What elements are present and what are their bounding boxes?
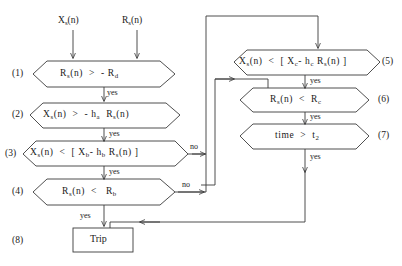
flowchart-canvas: Xs(n) Rs(n) (1) (2) (3) (4) (5) (6) (7) … [0, 0, 402, 266]
edge-label-yes-6-7: yes [310, 113, 321, 121]
edge-label-yes-2-3: yes [109, 130, 120, 138]
edge-label-yes-3-4: yes [109, 168, 120, 176]
flowchart-graphics [0, 0, 402, 266]
step-4-text: Rs(n) < Rb [62, 187, 117, 197]
step-marker-6: (6) [378, 95, 389, 105]
edge-label-no-4: no [182, 181, 190, 189]
step-1-text: Rs(n) > - Rd [60, 69, 119, 79]
step-3-text: Xs(n) < [ Xb- hb Rs(n) ] [30, 148, 139, 158]
step-marker-8: (8) [12, 236, 23, 246]
step-2-text: Xs(n) > - ha Rs(n) [43, 110, 129, 120]
trip-label: Trip [90, 234, 107, 244]
step-marker-2: (2) [12, 110, 23, 120]
edge-label-no-3: no [190, 143, 198, 151]
edge-label-yes-4-trip: yes [80, 212, 91, 220]
step-7-text: time > t2 [275, 131, 319, 141]
edge-feedback-rail [215, 79, 268, 185]
step-marker-1: (1) [12, 69, 23, 79]
input-label-xs: Xs(n) [58, 16, 79, 26]
step-6-text: Rs(n) < Rc [270, 95, 322, 105]
edge-label-yes-1-2: yes [107, 89, 118, 97]
step-marker-7: (7) [378, 131, 389, 141]
step-5-text: Xs(n) < [ Xc- hc Rs(n) ] [239, 57, 347, 67]
edge-label-yes-5-6: yes [310, 77, 321, 85]
step-marker-4: (4) [12, 187, 23, 197]
edge-label-yes-7-trip: yes [310, 153, 321, 161]
step-marker-5: (5) [382, 57, 393, 67]
step-marker-3: (3) [5, 149, 16, 159]
input-label-rs: Rs(n) [122, 16, 142, 26]
edge-7-yes-to-trip [110, 170, 305, 222]
